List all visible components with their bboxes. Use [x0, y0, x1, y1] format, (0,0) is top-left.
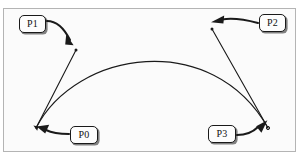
label-text-p0: P0	[79, 130, 90, 140]
bezier-diagram-figure: P1 P2 P0 P3	[0, 0, 301, 164]
point-marker-p2	[211, 28, 214, 31]
label-text-p2: P2	[267, 18, 278, 28]
label-box-p1[interactable]: P1	[19, 15, 46, 33]
label-box-p3[interactable]: P3	[208, 125, 236, 143]
label-box-p0[interactable]: P0	[70, 126, 98, 144]
label-text-p1: P1	[27, 19, 38, 29]
point-marker-p1	[75, 49, 78, 52]
label-text-p3: P3	[217, 129, 228, 139]
label-box-p2[interactable]: P2	[259, 14, 286, 32]
